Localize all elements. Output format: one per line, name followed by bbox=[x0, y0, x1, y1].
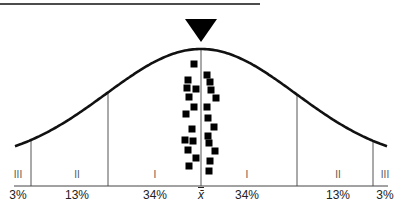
data-point-marker bbox=[208, 87, 215, 94]
diagram-canvas bbox=[0, 0, 402, 212]
data-point-marker bbox=[204, 72, 211, 79]
zone-percent-label: 3% bbox=[9, 188, 26, 202]
zone-roman-label: II bbox=[74, 169, 80, 180]
zone-percent-label: 34% bbox=[143, 188, 167, 202]
down-triangle-pointer-icon bbox=[185, 19, 217, 42]
data-point-marker bbox=[206, 168, 213, 175]
data-point-marker bbox=[183, 111, 190, 118]
zone-dividers bbox=[31, 49, 373, 186]
data-point-marker bbox=[205, 115, 212, 122]
zone-percent-label: 3% bbox=[376, 188, 393, 202]
zone-percent-label: 13% bbox=[65, 188, 89, 202]
data-point-marker bbox=[211, 124, 218, 131]
data-point-marker bbox=[184, 85, 191, 92]
zone-roman-label: III bbox=[381, 169, 389, 180]
data-point-marker bbox=[207, 158, 214, 165]
data-point-marker bbox=[204, 104, 211, 111]
zone-roman-label: I bbox=[246, 169, 249, 180]
zone-roman-label: I bbox=[154, 169, 157, 180]
data-point-marker bbox=[185, 77, 192, 84]
data-point-marker bbox=[182, 137, 189, 144]
zone-percent-label: 34% bbox=[235, 188, 259, 202]
data-point-marker bbox=[186, 94, 193, 101]
zone-roman-label: III bbox=[14, 169, 22, 180]
data-point-marker bbox=[190, 138, 197, 145]
data-point-marker bbox=[191, 104, 198, 111]
data-point-marker bbox=[206, 140, 213, 147]
normal-distribution-diagram: III3%II13%I34%I34%II13%III3% x̄ bbox=[0, 0, 402, 212]
data-point-marker bbox=[186, 163, 193, 170]
data-point-marker bbox=[193, 86, 200, 93]
data-point-marker bbox=[193, 155, 200, 162]
mean-label: x̄ bbox=[198, 188, 204, 202]
data-point-marker bbox=[205, 133, 212, 140]
data-point-marker bbox=[213, 95, 220, 102]
data-point-marker bbox=[207, 79, 214, 86]
zone-percent-label: 13% bbox=[326, 188, 350, 202]
data-point-marker bbox=[191, 61, 198, 68]
zone-roman-label: II bbox=[335, 169, 341, 180]
data-point-marker bbox=[189, 126, 196, 133]
data-point-marker bbox=[212, 148, 219, 155]
data-point-marker bbox=[185, 147, 192, 154]
